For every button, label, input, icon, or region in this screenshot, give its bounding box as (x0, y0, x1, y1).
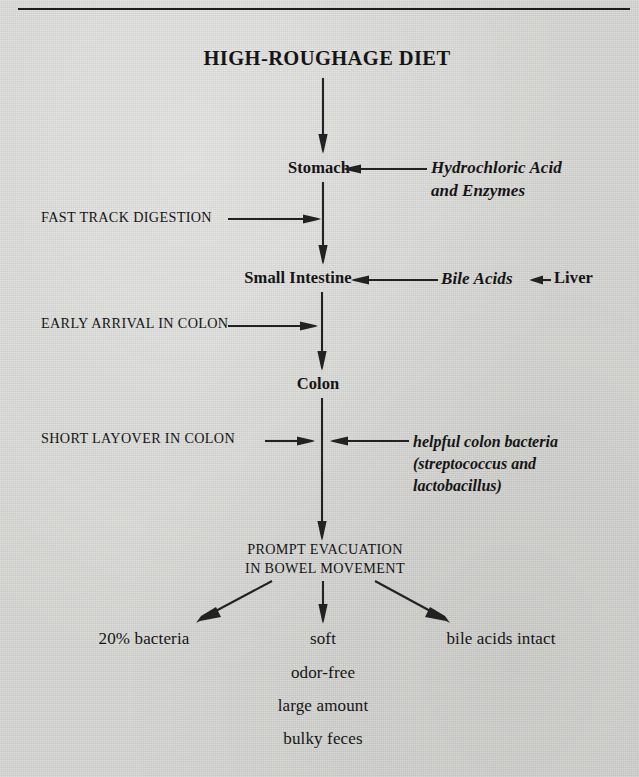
outcome-center-label-3: large amount (278, 696, 369, 715)
stage-label-small-intestine: Small Intestine (244, 269, 351, 287)
annotation-short-layover-in-colon: SHORT LAYOVER IN COLON (41, 431, 235, 447)
outcome-center-label-4: bulky feces (283, 729, 363, 748)
top-divider-rule (18, 8, 630, 10)
arrow-liver-to-bile-acids (530, 275, 552, 284)
arrow-diet-to-stomach (318, 78, 327, 154)
outcome-center-label-1: soft (310, 629, 336, 648)
outcome-right-label: bile acids intact (446, 629, 555, 648)
annotation-bile-acids: Bile Acids (441, 269, 513, 288)
arrow-colon-to-evacuation (317, 398, 326, 541)
annotation-helpful-colon-bacteria-line3: lactobacillus) (413, 475, 502, 496)
annotation-helpful-colon-bacteria-line2: (streptococcus and (413, 453, 536, 474)
arrow-hydrochloric-acid-to-stomach (343, 165, 427, 174)
arrow-evacuation-to-left-outcome (196, 581, 272, 623)
annotation-fast-track-digestion: FAST TRACK DIGESTION (41, 210, 212, 226)
annotation-early-arrival-in-colon: EARLY ARRIVAL IN COLON (41, 316, 228, 332)
stage-label-evacuation-line1: PROMPT EVACUATION (247, 542, 403, 558)
diagram-title: HIGH-ROUGHAGE DIET (204, 47, 451, 70)
flowchart-page: HIGH-ROUGHAGE DIET Stomach Small Intesti… (0, 0, 639, 777)
annotation-hydrochloric-acid-line1: Hydrochloric Acid (431, 158, 562, 177)
arrow-evacuation-to-right-outcome (375, 581, 450, 623)
arrow-fast-track-digestion-to-spine (228, 215, 321, 224)
arrow-early-arrival-in-colon-to-spine (228, 322, 318, 331)
outcome-left-label: 20% bacteria (98, 629, 189, 648)
arrow-bile-acids-to-small-intestine (351, 276, 438, 285)
arrow-small-intestine-to-colon (317, 292, 326, 371)
arrow-helpful-colon-bacteria-to-spine (330, 437, 409, 446)
stage-label-colon: Colon (297, 375, 340, 393)
annotation-helpful-colon-bacteria-line1: helpful colon bacteria (413, 431, 558, 452)
arrow-stomach-to-small-intestine (318, 182, 327, 265)
annotation-hydrochloric-acid-line2: and Enzymes (431, 181, 525, 200)
annotation-liver: Liver (554, 269, 593, 287)
outcome-center-label-2: odor-free (291, 663, 355, 682)
stage-label-stomach: Stomach (288, 159, 350, 177)
arrow-evacuation-to-center-outcome (318, 581, 327, 624)
stage-label-evacuation-line2: IN BOWEL MOVEMENT (245, 561, 405, 577)
arrow-short-layover-in-colon-to-spine (265, 437, 315, 446)
